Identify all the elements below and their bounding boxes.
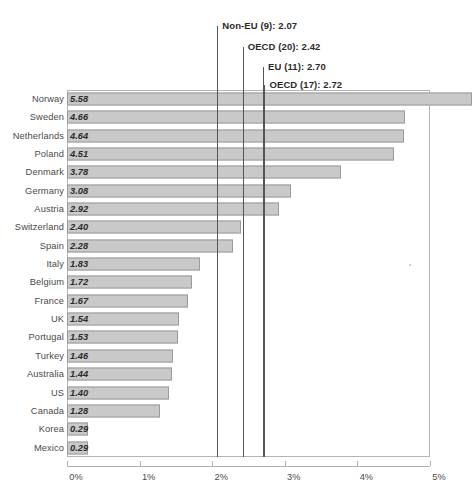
category-label: Austria xyxy=(34,204,64,214)
category-label: Portugal xyxy=(29,332,64,342)
bar-value-label: 0.29 xyxy=(70,424,88,434)
category-label: Turkey xyxy=(35,351,64,361)
bar-row: Sweden4.66 xyxy=(0,108,454,126)
category-label: Denmark xyxy=(26,167,64,177)
category-label: Norway xyxy=(32,94,64,104)
x-axis-tick xyxy=(357,461,358,466)
bar-row: Turkey1.46 xyxy=(0,347,454,365)
category-label: Mexico xyxy=(34,443,64,453)
category-label: US xyxy=(51,388,64,398)
reference-line-label: EU (11): 2.70 xyxy=(268,61,326,72)
bar-value-label: 1.53 xyxy=(70,332,88,342)
category-label: Netherlands xyxy=(13,131,64,141)
reference-line-label: Non-EU (9): 2.07 xyxy=(222,20,297,31)
bar xyxy=(67,203,279,216)
bar-row: Spain2.28 xyxy=(0,237,454,255)
bar-value-label: 0.29 xyxy=(70,443,88,453)
bar xyxy=(67,92,472,105)
bar-value-label: 3.08 xyxy=(70,186,88,196)
bar-row: Portugal1.53 xyxy=(0,329,454,347)
bar xyxy=(67,239,233,252)
bar xyxy=(67,166,341,179)
bar-value-label: 1.44 xyxy=(70,369,88,379)
x-axis-tick xyxy=(430,461,431,466)
bar-row: Australia1.44 xyxy=(0,365,454,383)
x-axis-tick-label: 5% xyxy=(432,472,445,482)
bar-row: France1.67 xyxy=(0,292,454,310)
bar-row: Italy1.83 xyxy=(0,255,454,273)
bar-row: UK1.54 xyxy=(0,310,454,328)
bar-row: Netherlands4.64 xyxy=(0,127,454,145)
bar-value-label: 4.66 xyxy=(70,112,88,122)
bar xyxy=(67,147,394,160)
bar-value-label: 4.51 xyxy=(70,149,88,159)
reference-line xyxy=(243,47,244,457)
bar-value-label: 2.92 xyxy=(70,204,88,214)
bar-value-label: 2.40 xyxy=(70,222,88,232)
category-label: Germany xyxy=(25,186,64,196)
bar-value-label: 1.28 xyxy=(70,406,88,416)
category-label: Spain xyxy=(40,241,64,251)
bar-row: Poland4.51 xyxy=(0,145,454,163)
bar-value-label: 2.28 xyxy=(70,241,88,251)
reference-line-callouts: Non-EU (9): 2.07OECD (20): 2.42EU (11): … xyxy=(0,0,454,92)
bar-row: Mexico0.29 xyxy=(0,439,454,457)
reference-line-label: OECD (17): 2.72 xyxy=(269,79,342,90)
category-label: Korea xyxy=(39,424,64,434)
x-axis-tick-label: 2% xyxy=(214,472,227,482)
x-axis-line xyxy=(67,466,430,467)
bar-row: US1.40 xyxy=(0,384,454,402)
bar-value-label: 1.72 xyxy=(70,277,88,287)
category-label: Sweden xyxy=(30,112,64,122)
bar-value-label: 1.40 xyxy=(70,388,88,398)
x-axis-tick-label: 4% xyxy=(360,472,373,482)
bar xyxy=(67,221,241,234)
bar-value-label: 4.64 xyxy=(70,131,88,141)
bar-row: Denmark3.78 xyxy=(0,163,454,181)
reference-line-label: OECD (20): 2.42 xyxy=(248,41,321,52)
bar-row: Austria2.92 xyxy=(0,200,454,218)
category-label: France xyxy=(34,296,64,306)
category-label: Australia xyxy=(27,369,64,379)
x-axis-tick-label: 0% xyxy=(69,472,82,482)
bar-value-label: 1.67 xyxy=(70,296,88,306)
reference-line xyxy=(264,85,265,457)
bar-value-label: 5.58 xyxy=(70,94,88,104)
category-label: UK xyxy=(51,314,64,324)
category-label: Belgium xyxy=(30,277,64,287)
bar-row: Norway5.58 xyxy=(0,90,454,108)
bar-value-label: 1.54 xyxy=(70,314,88,324)
x-axis-tick xyxy=(140,461,141,466)
bar-value-label: 1.46 xyxy=(70,351,88,361)
category-label: Canada xyxy=(31,406,64,416)
bar xyxy=(67,111,405,124)
bar xyxy=(67,184,291,197)
category-label: Poland xyxy=(34,149,64,159)
x-axis-tick-label: 1% xyxy=(142,472,155,482)
bar-row: Belgium1.72 xyxy=(0,274,454,292)
category-label: Switzerland xyxy=(15,222,64,232)
x-axis-tick-label: 3% xyxy=(287,472,300,482)
x-axis-tick xyxy=(212,461,213,466)
reference-line xyxy=(217,26,218,457)
bar-value-label: 3.78 xyxy=(70,167,88,177)
bar-value-label: 1.83 xyxy=(70,259,88,269)
bar-row: Canada1.28 xyxy=(0,402,454,420)
bar-row: Switzerland2.40 xyxy=(0,218,454,236)
x-axis-tick xyxy=(285,461,286,466)
x-axis-tick xyxy=(67,461,68,466)
bar-row: Korea0.29 xyxy=(0,420,454,438)
bar-row: Germany3.08 xyxy=(0,182,454,200)
category-label: Italy xyxy=(46,259,64,269)
bar xyxy=(67,129,404,142)
